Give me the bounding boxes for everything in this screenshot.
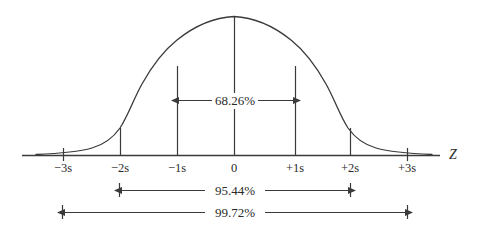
ordinate-lines [121, 17, 351, 156]
normal-distribution-figure: −3s −2s −1s 0 +1s +2s +3s Z 68.26% 95.44… [0, 0, 480, 229]
label-68-percent: 68.26% [212, 93, 258, 109]
tick-label-plus-3s: +3s [398, 161, 416, 176]
label-99-percent: 99.72% [212, 205, 258, 221]
z-axis-label: Z [449, 147, 457, 163]
tick-label-zero: 0 [231, 161, 237, 176]
tick-label-minus-2s: −2s [111, 161, 129, 176]
tick-label-plus-1s: +1s [286, 161, 304, 176]
tick-label-minus-1s: −1s [168, 161, 186, 176]
tick-label-minus-3s: −3s [54, 161, 72, 176]
axis-tick-marks [64, 148, 408, 161]
tick-label-plus-2s: +2s [341, 161, 359, 176]
label-95-percent: 95.44% [212, 183, 258, 199]
